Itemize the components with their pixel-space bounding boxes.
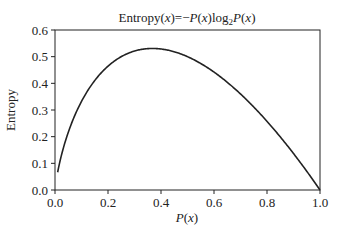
y-tick-label: 0.0: [32, 183, 48, 198]
x-tick-label: 0.6: [206, 195, 223, 210]
y-tick-label: 0.3: [32, 103, 48, 118]
axes-frame: [55, 30, 320, 190]
x-tick-label: 0.0: [47, 195, 63, 210]
x-tick-label: 0.8: [259, 195, 275, 210]
x-tick-label: 0.2: [100, 195, 116, 210]
x-tick-label: 1.0: [312, 195, 328, 210]
entropy-curve: [58, 48, 320, 190]
x-axis-ticks: 0.00.20.40.60.81.0: [47, 190, 328, 210]
y-tick-label: 0.1: [32, 156, 48, 171]
y-tick-label: 0.4: [32, 76, 49, 91]
y-tick-label: 0.5: [32, 49, 48, 64]
y-tick-label: 0.6: [32, 23, 49, 38]
y-tick-label: 0.2: [32, 129, 48, 144]
x-axis-label: P(x): [175, 210, 198, 225]
entropy-chart: Entropy(x)=−P(x)log2P(x) 0.00.10.20.30.4…: [0, 0, 347, 237]
plot-area: 0.00.10.20.30.40.50.6 0.00.20.40.60.81.0: [32, 23, 328, 211]
y-axis-label: Entropy: [3, 89, 18, 131]
chart-title: Entropy(x)=−P(x)log2P(x): [119, 10, 256, 27]
x-tick-label: 0.4: [153, 195, 170, 210]
y-axis-ticks: 0.00.10.20.30.40.50.6: [32, 23, 55, 198]
